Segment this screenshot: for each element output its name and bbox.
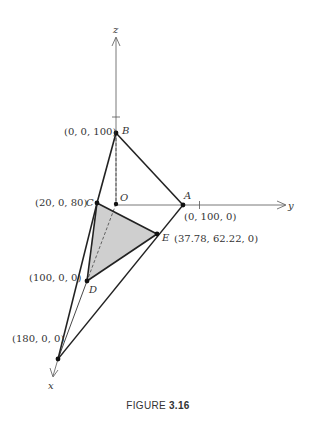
coords-B: (0, 0, 100) bbox=[64, 126, 116, 137]
label-D: D bbox=[88, 284, 97, 295]
caption-prefix: FIGURE bbox=[126, 400, 166, 411]
edge-BC bbox=[97, 133, 116, 203]
x-axis-label: x bbox=[48, 380, 54, 391]
label-O: O bbox=[120, 192, 128, 203]
figure-canvas: z y x B O A C E D (0, 0, 100) (20, 0, 80… bbox=[0, 0, 316, 430]
y-axis-label: y bbox=[287, 200, 294, 211]
figure-caption: FIGURE 3.16 bbox=[0, 400, 316, 411]
point-X180 bbox=[56, 357, 61, 362]
coords-X180: (180, 0, 0) bbox=[12, 333, 64, 344]
coords-D: (100, 0, 0) bbox=[29, 272, 81, 283]
coords-C: (20, 0, 80) bbox=[35, 197, 87, 208]
label-E: E bbox=[161, 232, 170, 243]
point-O bbox=[114, 202, 118, 206]
point-D bbox=[85, 279, 90, 284]
caption-number: 3.16 bbox=[169, 400, 190, 411]
point-E bbox=[155, 232, 160, 237]
coords-A: (0, 100, 0) bbox=[184, 211, 236, 222]
edge-D-X bbox=[58, 281, 87, 359]
point-A bbox=[181, 203, 186, 208]
z-axis-label: z bbox=[112, 24, 119, 35]
diagram-svg: z y x B O A C E D (0, 0, 100) (20, 0, 80… bbox=[0, 0, 316, 430]
coords-E: (37.78, 62.22, 0) bbox=[174, 233, 258, 244]
label-A: A bbox=[183, 190, 191, 201]
point-C bbox=[95, 201, 100, 206]
label-B: B bbox=[121, 125, 129, 136]
